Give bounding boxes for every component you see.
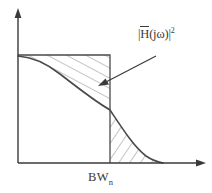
bandwidth-subscript: n [109,177,113,187]
y-axis-arrowhead [15,8,22,18]
lower-hatched-area [106,104,170,168]
diagram-canvas [0,0,212,193]
exponent-two: 2 [171,26,175,35]
noise-bandwidth-diagram: |H(jω)|2 BWn [0,0,212,193]
bandwidth-base: BW [88,170,109,184]
transfer-function-label: |H(jω)|2 [138,27,175,42]
x-axis-arrowhead [196,160,206,167]
bandwidth-label: BWn [88,170,113,185]
h-with-overline: H [140,27,149,42]
jomega-argument: (jω) [149,27,168,41]
y-axis [15,8,22,163]
